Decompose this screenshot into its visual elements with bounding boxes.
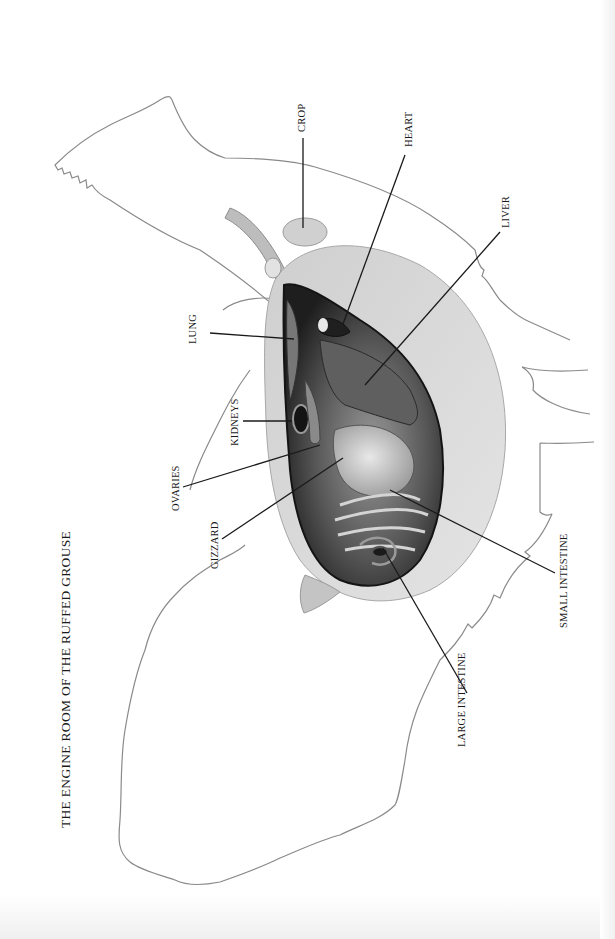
kidney-organ [293, 405, 309, 433]
back-outline [475, 250, 570, 340]
label-lung: LUNG [187, 314, 198, 344]
label-heart: HEART [403, 112, 414, 147]
wing-lower-outline [190, 370, 250, 490]
wing-coverts-outline [522, 367, 590, 414]
label-kidneys: KIDNEYS [229, 399, 240, 446]
label-crop: CROP [296, 104, 307, 132]
shoulder-joint [265, 258, 281, 278]
label-large-intestine: LARGE INTESTINE [456, 653, 467, 747]
grouse-anatomy-illustration [0, 0, 615, 939]
label-small-intestine: SMALL INTESTINE [558, 534, 569, 628]
crop-organ [283, 218, 327, 246]
book-page: THE ENGINE ROOM OF THE RUFFED GROUSE CRO… [0, 0, 615, 939]
figure-title: THE ENGINE ROOM OF THE RUFFED GROUSE [58, 531, 74, 828]
label-ovaries: OVARIES [170, 465, 181, 511]
leg-outline [540, 442, 594, 515]
label-liver: LIVER [500, 196, 511, 228]
label-gizzard: GIZZARD [209, 522, 220, 569]
